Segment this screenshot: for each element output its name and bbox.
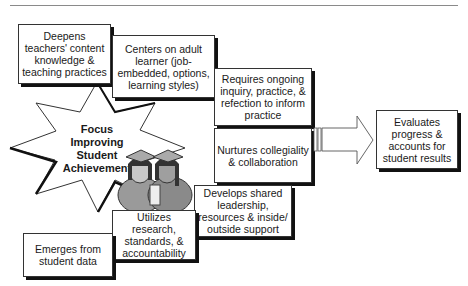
label-evaluates: Evaluates progress & accounts for studen… <box>379 116 455 164</box>
block-arrow-right-icon <box>314 116 373 164</box>
box-evaluates: Evaluates progress & accounts for studen… <box>376 110 458 169</box>
